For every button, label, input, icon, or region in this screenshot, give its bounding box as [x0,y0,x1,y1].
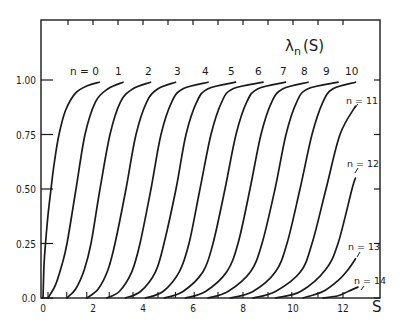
y-tick-label: 0.25 [16,239,36,250]
y-tick-label: 1.00 [16,75,36,86]
title-lambda: λ [285,37,294,55]
y-tick-label: 0.75 [16,130,36,141]
curve-n11 [253,106,356,298]
plot-border [41,20,380,298]
x-axis-label: S [372,298,382,316]
label-n9: 9 [323,65,330,77]
label-n13: n = 13 [348,241,380,252]
x-tick-label: 10 [287,303,299,314]
curve-n6 [146,82,264,298]
label-pointer [357,252,360,257]
x-tick-label: 12 [337,303,348,314]
y-tick-label: 0.0 [22,293,37,304]
chart-canvas: 0.00.250.500.751.00024681012 n = 0 1 2 3… [0,0,402,322]
label-n8: 8 [301,65,308,77]
start-markers [48,104,364,298]
x-tick-label: 6 [190,303,196,314]
label-n0: n = 0 [70,65,99,77]
x-tick-label: 2 [90,303,96,314]
y-tick-label: 0.50 [16,184,36,195]
label-n2: 2 [145,65,152,77]
title-argument: (S) [303,37,324,55]
label-n7: 7 [280,65,287,77]
curve-n12 [276,178,356,298]
label-n11: n = 11 [346,95,378,106]
plot-frame [41,20,380,298]
label-n4: 4 [202,65,209,77]
x-tick-label: 4 [140,303,146,314]
label-n14: n = 14 [354,275,386,286]
label-pointer [361,286,364,290]
axis-ticks [41,20,380,298]
curves [43,82,358,298]
chart-title-lambda: λn(S) [285,37,324,58]
curve-n8 [186,82,309,298]
x-tick-label: 0 [40,303,46,314]
label-n1: 1 [115,65,122,77]
label-n5: 5 [228,65,235,77]
label-n12: n = 12 [347,158,379,169]
label-n6: 6 [255,65,262,77]
title-subscript: n [294,45,301,58]
label-n10: 10 [345,65,358,77]
label-n3: 3 [174,65,181,77]
x-tick-label: 8 [240,303,246,314]
